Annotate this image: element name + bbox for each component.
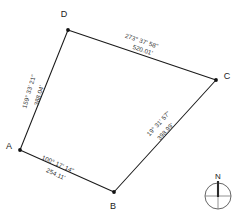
vertex-label-d: D — [61, 9, 68, 19]
vertex-dot-d — [66, 28, 70, 32]
vertex-label-c: C — [224, 71, 231, 81]
vertex-label-b: B — [110, 201, 116, 211]
north-arrow: N — [205, 172, 231, 209]
survey-plat-diagram: ABCD 159° 33' 21"388.04'273° 37' 58"520.… — [0, 0, 246, 221]
vertex-label-group: ABCD — [6, 9, 231, 211]
vertex-dot-b — [112, 190, 116, 194]
vertex-label-a: A — [6, 141, 12, 151]
vertex-dot-c — [214, 78, 218, 82]
edge-label-group: 159° 33' 21"388.04'273° 37' 58"520.01'19… — [20, 32, 174, 181]
edge-ad-distance: 388.04' — [32, 84, 44, 106]
compass-north-label: N — [215, 172, 221, 181]
plat-drawing-area: ABCD 159° 33' 21"388.04'273° 37' 58"520.… — [0, 0, 246, 221]
vertex-dot-a — [18, 148, 22, 152]
